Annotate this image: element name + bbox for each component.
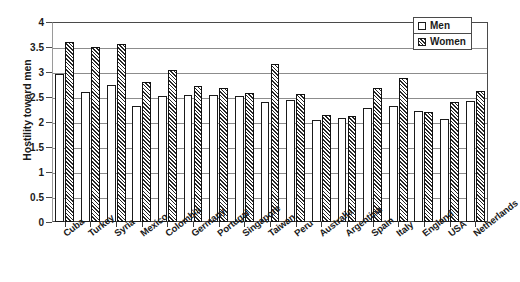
open-square-swatch-icon <box>418 22 426 30</box>
bar-slot <box>424 22 433 222</box>
bar-men[interactable] <box>55 74 64 223</box>
y-axis-tick-label: 1 <box>4 167 44 178</box>
bar-group <box>363 22 382 222</box>
bar-slot <box>440 22 449 222</box>
bar-slot <box>450 22 459 222</box>
bar-women[interactable] <box>245 93 254 222</box>
x-axis-tick-mark <box>167 222 168 227</box>
bar-men[interactable] <box>132 106 141 222</box>
bar-women[interactable] <box>142 82 151 223</box>
bar-slot <box>338 22 347 222</box>
bar-men[interactable] <box>363 108 372 222</box>
bar-group <box>158 22 177 222</box>
bar-slot <box>194 22 203 222</box>
y-axis-tick-label: 1.5 <box>4 142 44 153</box>
bar-men[interactable] <box>107 85 116 223</box>
bar-men[interactable] <box>312 120 321 223</box>
bar-men[interactable] <box>158 96 167 223</box>
bar-men[interactable] <box>81 92 90 223</box>
y-axis-tick-label: 0.5 <box>4 192 44 203</box>
x-axis-tick-mark <box>270 222 271 227</box>
bar-men[interactable] <box>466 101 475 223</box>
bar-slot <box>81 22 90 222</box>
x-axis-tick-mark <box>219 222 220 227</box>
bar-slot <box>363 22 372 222</box>
bar-slot <box>184 22 193 222</box>
bar-slot <box>261 22 270 222</box>
bar-men[interactable] <box>209 95 218 222</box>
bar-men[interactable] <box>261 102 270 223</box>
bar-men[interactable] <box>338 118 347 223</box>
x-axis-tick-mark <box>65 222 66 227</box>
bar-slot <box>168 22 177 222</box>
bar-women[interactable] <box>450 102 459 223</box>
bar-men[interactable] <box>440 119 449 223</box>
bar-men[interactable] <box>235 96 244 222</box>
bar-group <box>312 22 331 222</box>
bar-slot <box>271 22 280 222</box>
bar-slot <box>107 22 116 222</box>
bar-women[interactable] <box>168 70 177 222</box>
bar-group <box>81 22 100 222</box>
bar-slot <box>322 22 331 222</box>
bar-group <box>338 22 357 222</box>
x-axis-tick-mark <box>424 222 425 227</box>
bar-women[interactable] <box>219 88 228 223</box>
bar-group <box>235 22 254 222</box>
bar-slot <box>117 22 126 222</box>
bar-women[interactable] <box>296 94 305 222</box>
bar-men[interactable] <box>184 95 193 223</box>
bar-women[interactable] <box>117 44 126 223</box>
y-axis-tick-mark <box>46 222 52 223</box>
bar-men[interactable] <box>414 111 423 222</box>
bar-group <box>261 22 280 222</box>
bar-group <box>440 22 459 222</box>
y-axis-tick-label: 2 <box>4 117 44 128</box>
bar-slot <box>296 22 305 222</box>
bar-women[interactable] <box>399 78 408 222</box>
legend: Men Women <box>413 17 472 50</box>
bar-group <box>107 22 126 222</box>
bar-slot <box>373 22 382 222</box>
x-axis-tick-mark <box>475 222 476 227</box>
bar-slot <box>348 22 357 222</box>
bar-group <box>184 22 203 222</box>
legend-item-men[interactable]: Men <box>414 18 471 33</box>
bar-women[interactable] <box>348 116 357 222</box>
bar-group <box>286 22 305 222</box>
x-axis-tick-mark <box>244 222 245 227</box>
bar-slot <box>219 22 228 222</box>
bar-group <box>209 22 228 222</box>
bar-men[interactable] <box>286 100 295 223</box>
bar-women[interactable] <box>424 112 433 223</box>
x-axis-tick-mark <box>193 222 194 227</box>
bar-slot <box>158 22 167 222</box>
bar-men[interactable] <box>389 106 398 222</box>
bar-slot <box>55 22 64 222</box>
bar-group <box>389 22 408 222</box>
bar-women[interactable] <box>65 42 74 222</box>
bar-women[interactable] <box>476 91 485 222</box>
bar-slot <box>132 22 141 222</box>
legend-item-women[interactable]: Women <box>414 33 471 49</box>
bar-women[interactable] <box>373 88 382 223</box>
bar-women[interactable] <box>91 47 100 223</box>
bar-slot <box>312 22 321 222</box>
bar-women[interactable] <box>271 64 280 222</box>
bar-slot <box>399 22 408 222</box>
y-axis-tick-label: 2.5 <box>4 92 44 103</box>
bar-slot <box>414 22 423 222</box>
bar-group <box>414 22 433 222</box>
bar-slot <box>286 22 295 222</box>
bar-women[interactable] <box>322 115 331 222</box>
legend-item-label: Men <box>430 20 450 31</box>
bar-women[interactable] <box>194 86 203 222</box>
x-axis-tick-mark <box>142 222 143 227</box>
y-axis-tick-label: 0 <box>4 217 44 228</box>
y-axis-tick-label: 3 <box>4 67 44 78</box>
bar-slot <box>91 22 100 222</box>
bars-layer <box>52 22 488 222</box>
x-axis-tick-mark <box>116 222 117 227</box>
x-axis-tick-mark <box>398 222 399 227</box>
